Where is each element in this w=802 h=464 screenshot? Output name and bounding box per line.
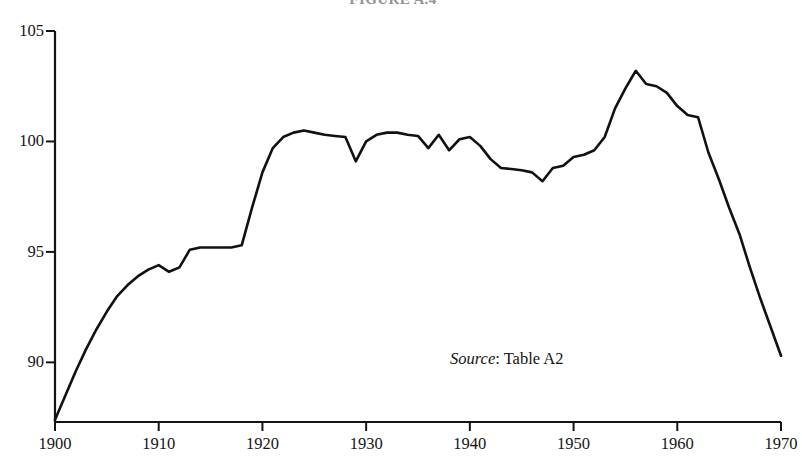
x-axis-tick-label: 1960 <box>647 434 707 454</box>
x-axis-tick-label: 1920 <box>232 434 292 454</box>
axis-group <box>46 31 781 431</box>
x-axis-tick-label: 1910 <box>129 434 189 454</box>
source-value: Table A2 <box>504 349 564 368</box>
x-axis-tick-label: 1930 <box>336 434 396 454</box>
x-axis-ticks <box>55 422 781 431</box>
source-label: Source <box>450 349 495 368</box>
y-axis-ticks <box>46 31 55 362</box>
source-separator: : <box>495 349 503 368</box>
x-axis-tick-label: 1950 <box>544 434 604 454</box>
y-axis-tick-label: 105 <box>0 21 44 41</box>
source-annotation: Source: Table A2 <box>450 349 563 369</box>
y-axis-tick-label: 90 <box>0 352 44 372</box>
y-axis-tick-label: 100 <box>0 131 44 151</box>
x-axis-tick-label: 1940 <box>440 434 500 454</box>
y-axis-tick-label: 95 <box>0 242 44 262</box>
x-axis-tick-label: 1900 <box>25 434 85 454</box>
x-axis-tick-label: 1970 <box>751 434 802 454</box>
data-series-line <box>55 71 781 420</box>
